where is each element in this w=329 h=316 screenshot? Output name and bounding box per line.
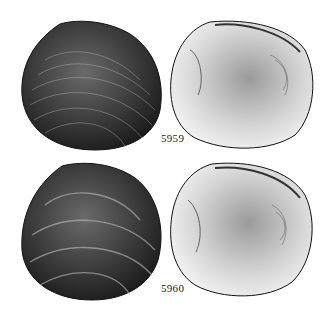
shell-5960-interior: [171, 163, 313, 296]
shell-drawings: [0, 0, 329, 316]
shell-5960-exterior: [22, 163, 161, 300]
figure-label-5959: 5959: [161, 132, 184, 144]
shell-5959-interior: [171, 21, 313, 148]
shell-5959-exterior: [22, 21, 161, 150]
shell-illustration-plate: 5959 5960: [0, 0, 329, 316]
figure-label-5960: 5960: [161, 282, 184, 294]
